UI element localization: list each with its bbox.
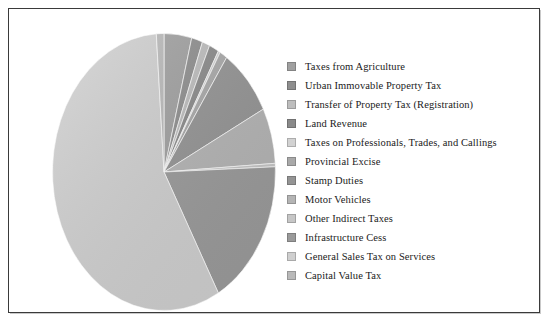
legend-item[interactable]: Taxes on Professionals, Trades, and Call… (287, 133, 537, 152)
chart-legend: Taxes from Agriculture Urban Immovable P… (287, 57, 537, 285)
legend-color-swatch-icon (287, 176, 296, 185)
legend-item[interactable]: Provincial Excise (287, 152, 537, 171)
legend-color-swatch-icon (287, 271, 296, 280)
legend-item-label: Transfer of Property Tax (Registration) (305, 95, 473, 114)
legend-item-label: General Sales Tax on Services (305, 247, 435, 266)
legend-item-label: Motor Vehicles (305, 190, 371, 209)
legend-item-label: Taxes on Professionals, Trades, and Call… (305, 133, 497, 152)
legend-item[interactable]: Urban Immovable Property Tax (287, 76, 537, 95)
legend-item[interactable]: Transfer of Property Tax (Registration) (287, 95, 537, 114)
legend-item-label: Stamp Duties (305, 171, 363, 190)
legend-item[interactable]: Capital Value Tax (287, 266, 537, 285)
legend-color-swatch-icon (287, 157, 296, 166)
legend-color-swatch-icon (287, 81, 296, 90)
legend-color-swatch-icon (287, 195, 296, 204)
legend-item-label: Land Revenue (305, 114, 367, 133)
legend-item[interactable]: Taxes from Agriculture (287, 57, 537, 76)
legend-item[interactable]: Land Revenue (287, 114, 537, 133)
legend-color-swatch-icon (287, 100, 296, 109)
legend-item[interactable]: General Sales Tax on Services (287, 247, 537, 266)
legend-item-label: Capital Value Tax (305, 266, 381, 285)
legend-item-label: Other Indirect Taxes (305, 209, 393, 228)
legend-color-swatch-icon (287, 233, 296, 242)
pie-shading-overlay (53, 34, 276, 311)
legend-item-label: Taxes from Agriculture (305, 57, 405, 76)
legend-item[interactable]: Infrastructure Cess (287, 228, 537, 247)
legend-item[interactable]: Other Indirect Taxes (287, 209, 537, 228)
legend-color-swatch-icon (287, 62, 296, 71)
legend-item-label: Infrastructure Cess (305, 228, 387, 247)
legend-item-label: Provincial Excise (305, 152, 380, 171)
legend-color-swatch-icon (287, 119, 296, 128)
pie-chart-area (49, 29, 281, 317)
legend-item[interactable]: Motor Vehicles (287, 190, 537, 209)
legend-item[interactable]: Stamp Duties (287, 171, 537, 190)
legend-color-swatch-icon (287, 214, 296, 223)
legend-color-swatch-icon (287, 252, 296, 261)
legend-item-label: Urban Immovable Property Tax (305, 76, 441, 95)
pie-chart-svg (49, 29, 281, 317)
figure-canvas: Taxes from Agriculture Urban Immovable P… (0, 0, 550, 323)
legend-color-swatch-icon (287, 138, 296, 147)
chart-frame-border: Taxes from Agriculture Urban Immovable P… (8, 8, 540, 313)
